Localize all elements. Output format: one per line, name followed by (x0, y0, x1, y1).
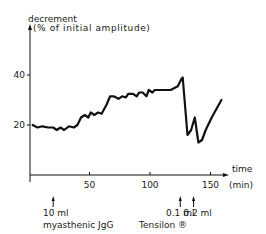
annotation-dose-igg: 10 ml (43, 208, 69, 218)
annotation-tensilon-label: Tensilon ® (138, 220, 187, 230)
annotation-tensilon-dose-2: 0.2 ml (183, 208, 211, 218)
annotation-myasthenic-igg: myasthenic JgG (43, 220, 113, 230)
x-tick-label: 50 (84, 180, 96, 190)
annotation-arrow-head (192, 196, 195, 201)
line-chart: decrement (% of initial amplitude) time … (0, 0, 266, 234)
x-tick-label: 100 (141, 180, 158, 190)
y-tick-label: 40 (14, 70, 26, 80)
x-axis-label-line1: time (232, 164, 253, 174)
annotation-arrow-head (179, 196, 182, 201)
y-tick-label: 20 (14, 120, 26, 130)
y-axis-label-line2: (% of initial amplitude) (33, 23, 150, 33)
x-tick-label: 150 (202, 180, 219, 190)
y-axis-arrow (28, 24, 32, 30)
annotation-arrow-head (52, 196, 55, 201)
series-line-decrement (33, 78, 222, 143)
x-axis-label-line2: (min) (229, 180, 253, 190)
x-axis-arrow (223, 173, 229, 177)
